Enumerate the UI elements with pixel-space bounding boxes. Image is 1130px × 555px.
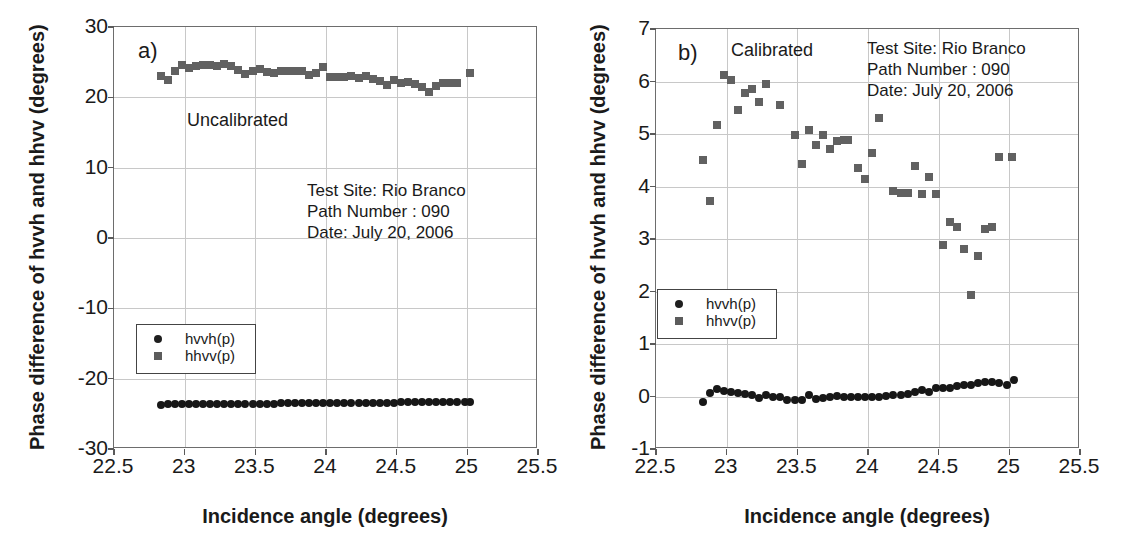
data-point-hhvvp <box>284 67 292 75</box>
data-point-hvvhp <box>819 394 827 402</box>
data-point-hhvvp <box>953 223 961 231</box>
data-point-hhvvp <box>812 141 820 149</box>
gridline-horizontal <box>656 239 1078 240</box>
data-point-hvvhp <box>911 388 919 396</box>
data-point-hhvvp <box>241 70 249 78</box>
panel-a-meta-date: Date: July 20, 2006 <box>307 222 466 243</box>
data-point-hvvhp <box>411 398 419 406</box>
data-point-hhvvp <box>439 79 447 87</box>
data-point-hvvhp <box>199 400 207 408</box>
data-point-hhvvp <box>833 137 841 145</box>
data-point-hhvvp <box>727 76 735 84</box>
data-point-hvvhp <box>925 388 933 396</box>
data-point-hhvvp <box>256 65 264 73</box>
data-point-hvvhp <box>425 398 433 406</box>
data-point-hhvvp <box>340 73 348 81</box>
data-point-hvvhp <box>333 399 341 407</box>
y-tick-mark <box>650 186 656 187</box>
data-point-hvvhp <box>298 399 306 407</box>
y-tick-label: 5 <box>580 122 650 143</box>
data-point-hhvvp <box>376 77 384 85</box>
y-tick-mark <box>650 238 656 239</box>
data-point-hhvvp <box>369 75 377 83</box>
data-point-hhvvp <box>446 79 454 87</box>
legend-label-hhvv: hhvv(p) <box>692 312 756 329</box>
panel-a-meta-path-number: Path Number : 090 <box>307 201 466 222</box>
legend-label-hhvv: hhvv(p) <box>171 347 235 364</box>
data-point-hvvhp <box>340 399 348 407</box>
data-point-hvvhp <box>305 399 313 407</box>
data-point-hhvvp <box>362 72 370 80</box>
data-point-hhvvp <box>699 156 707 164</box>
data-point-hvvhp <box>362 399 370 407</box>
panel-a-x-axis-title: Incidence angle (degrees) <box>113 505 537 528</box>
y-tick-label: 1 <box>580 332 650 353</box>
legend-item-hhvv[interactable]: hhvv(p) <box>666 312 766 329</box>
data-point-hhvvp <box>164 76 172 84</box>
y-tick-label: 3 <box>580 227 650 248</box>
panel-a-legend[interactable]: hvvh(p) hhvv(p) <box>136 324 256 374</box>
data-point-hhvvp <box>826 145 834 153</box>
panel-a-meta-test-site: Test Site: Rio Branco <box>307 180 466 201</box>
data-point-hhvvp <box>347 72 355 80</box>
legend-item-hvvh[interactable]: hvvh(p) <box>666 295 766 312</box>
gridline-horizontal <box>656 187 1078 188</box>
data-point-hvvhp <box>157 401 165 409</box>
gridline-horizontal <box>114 97 536 98</box>
legend-label-hvvh: hvvh(p) <box>692 295 756 312</box>
y-tick-mark <box>108 26 114 27</box>
panel-b-x-axis-title: Incidence angle (degrees) <box>655 505 1079 528</box>
data-point-hhvvp <box>220 60 228 68</box>
data-point-hhvvp <box>748 85 756 93</box>
data-point-hhvvp <box>918 190 926 198</box>
data-point-hvvhp <box>699 398 707 406</box>
data-point-hhvvp <box>227 62 235 70</box>
data-point-hvvhp <box>974 379 982 387</box>
data-point-hhvvp <box>199 61 207 69</box>
gridline-vertical <box>797 29 798 447</box>
data-point-hvvhp <box>988 378 996 386</box>
data-point-hvvhp <box>889 391 897 399</box>
data-point-hvvhp <box>220 400 228 408</box>
data-point-hhvvp <box>291 67 299 75</box>
data-point-hhvvp <box>974 252 982 260</box>
data-point-hhvvp <box>939 241 947 249</box>
data-point-hvvhp <box>213 400 221 408</box>
data-point-hhvvp <box>854 164 862 172</box>
data-point-hvvhp <box>995 379 1003 387</box>
circle-marker-icon <box>666 300 692 308</box>
panel-b-meta-block: Test Site: Rio Branco Path Number : 090 … <box>867 38 1026 101</box>
panel-b-tag: b) <box>678 40 698 66</box>
data-point-hhvvp <box>213 62 221 70</box>
legend-item-hhvv[interactable]: hhvv(p) <box>145 347 245 364</box>
y-tick-label: -20 <box>38 367 108 388</box>
gridline-vertical <box>255 27 256 447</box>
y-tick-label: 20 <box>38 85 108 106</box>
gridline-horizontal <box>114 168 536 169</box>
data-point-hvvhp <box>446 398 454 406</box>
y-tick-label: 4 <box>580 175 650 196</box>
data-point-hhvvp <box>734 106 742 114</box>
legend-item-hvvh[interactable]: hvvh(p) <box>145 330 245 347</box>
data-point-hhvvp <box>270 69 278 77</box>
gridline-vertical <box>727 29 728 447</box>
data-point-hhvvp <box>418 83 426 91</box>
data-point-hhvvp <box>889 187 897 195</box>
data-point-hhvvp <box>298 67 306 75</box>
data-point-hvvhp <box>453 398 461 406</box>
data-point-hvvhp <box>1010 376 1018 384</box>
y-tick-mark <box>650 291 656 292</box>
data-point-hhvvp <box>192 62 200 70</box>
panel-b-legend[interactable]: hvvh(p) hhvv(p) <box>657 289 777 339</box>
data-point-hvvhp <box>967 381 975 389</box>
data-point-hhvvp <box>706 197 714 205</box>
data-point-hhvvp <box>741 89 749 97</box>
data-point-hvvhp <box>897 391 905 399</box>
data-point-hvvhp <box>234 400 242 408</box>
data-point-hvvhp <box>432 398 440 406</box>
data-point-hhvvp <box>776 101 784 109</box>
data-point-hvvhp <box>713 385 721 393</box>
panel-b-meta-test-site: Test Site: Rio Branco <box>867 38 1026 59</box>
data-point-hhvvp <box>305 71 313 79</box>
panel-b-meta-path-number: Path Number : 090 <box>867 59 1026 80</box>
